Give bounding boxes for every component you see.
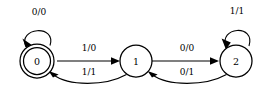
transition-0-to-1: [57, 57, 120, 65]
transition-1-to-2-arrowhead: [210, 57, 219, 65]
transition-label-0-to-1: 1/0: [82, 43, 97, 53]
transition-label-2-to-2: 1/1: [230, 6, 244, 16]
state-node-2-label: 2: [233, 56, 239, 67]
transition-label-2-to-1: 0/1: [180, 67, 194, 77]
transition-1-to-2: [152, 57, 219, 65]
transition-label-1-to-2: 0/0: [180, 43, 195, 53]
state-node-0[interactable]: 0: [20, 44, 54, 78]
state-machine-diagram: 0 1 2 0/0 1/0 1/1 0/0 0/1 1/1: [0, 0, 267, 89]
fsm-canvas: 0 1 2 0/0 1/0 1/1 0/0 0/1 1/1: [0, 0, 267, 89]
transition-0-to-1-arrowhead: [111, 57, 120, 65]
state-node-1[interactable]: 1: [120, 45, 152, 77]
transition-label-0-to-0: 0/0: [32, 7, 47, 17]
state-node-0-label: 0: [34, 56, 40, 67]
state-node-1-label: 1: [133, 56, 139, 67]
state-node-2[interactable]: 2: [220, 45, 252, 77]
transition-label-1-to-0: 1/1: [82, 67, 96, 77]
